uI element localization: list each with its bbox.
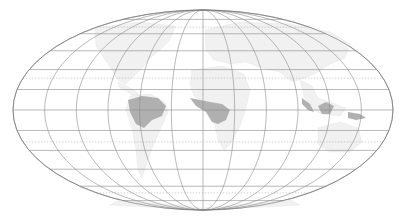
world-map (0, 0, 405, 221)
